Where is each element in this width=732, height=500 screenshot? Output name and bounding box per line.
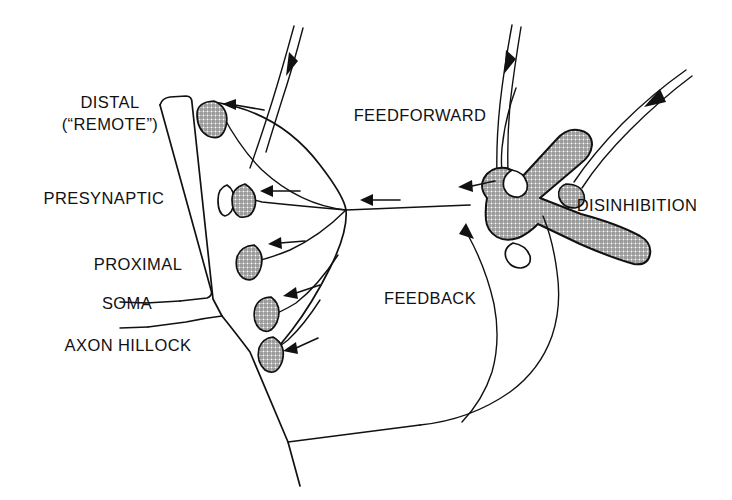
axon xyxy=(222,316,420,486)
bouton-axon-hillock xyxy=(258,337,283,372)
bouton-presynaptic xyxy=(232,184,256,217)
label-distal: DISTAL xyxy=(81,93,140,111)
disinhibition-input-axon xyxy=(574,70,692,188)
label-soma: SOMA xyxy=(102,294,152,312)
arrow-trunk xyxy=(360,194,400,206)
soma-body xyxy=(146,301,222,327)
feedforward-input-axon-right xyxy=(497,25,521,176)
axon-collateral-return xyxy=(420,216,559,425)
label-proximal: PROXIMAL xyxy=(94,255,182,273)
arrow-proximal xyxy=(268,237,305,249)
bouton-distal xyxy=(197,101,227,138)
label-feedback: FEEDBACK xyxy=(384,289,476,307)
label-axon-hillock: AXON HILLOCK xyxy=(65,336,192,354)
label-distal-remote: (“REMOTE”) xyxy=(62,115,159,133)
neuron-diagram-figure: DISTAL (“REMOTE”) PRESYNAPTIC PROXIMAL S… xyxy=(0,0,732,500)
arrow-presynaptic xyxy=(260,185,300,197)
dendritic-fan xyxy=(214,102,470,358)
feedforward-input-axon-left xyxy=(250,26,303,168)
label-presynaptic: PRESYNAPTIC xyxy=(44,189,165,207)
interneuron-terminal-lower xyxy=(505,243,530,268)
label-feedforward: FEEDFORWARD xyxy=(354,106,487,124)
bouton-proximal xyxy=(236,245,262,280)
bouton-soma xyxy=(254,297,279,331)
neuron-diagram-canvas: DISTAL (“REMOTE”) PRESYNAPTIC PROXIMAL S… xyxy=(0,0,732,500)
feedback-curve xyxy=(459,223,497,422)
label-disinhibition: DISINHIBITION xyxy=(577,196,698,214)
